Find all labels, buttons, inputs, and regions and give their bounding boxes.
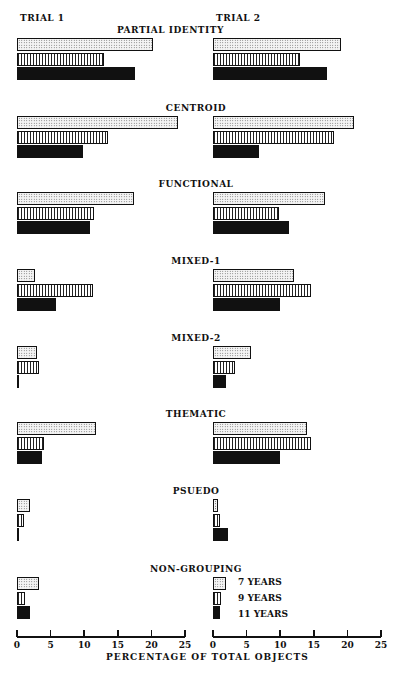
- bar-trial2-9-years: [213, 131, 334, 144]
- bar-trial1-9-years: [17, 514, 24, 527]
- x-tick-label: 20: [341, 640, 354, 650]
- bar-trial1-11-years: [17, 67, 135, 80]
- x-tick-label: 0: [14, 640, 20, 650]
- x-axis-tick: [50, 630, 52, 637]
- bar-trial2-7-years: [213, 346, 251, 359]
- bar-trial2-11-years: [213, 606, 220, 619]
- bar-trial2-9-years: [213, 53, 300, 66]
- bar-trial1-7-years: [17, 116, 178, 129]
- bar-trial1-7-years: [17, 577, 39, 590]
- bar-trial1-11-years: [17, 145, 83, 158]
- bar-trial2-7-years: [213, 422, 307, 435]
- x-tick-label: 5: [47, 640, 53, 650]
- trial-1-title: TRIAL 1: [20, 13, 65, 23]
- bar-trial1-11-years: [17, 298, 56, 311]
- bar-trial1-9-years: [17, 53, 104, 66]
- x-axis-line: [213, 636, 381, 638]
- bar-trial2-11-years: [213, 221, 289, 234]
- x-tick-label: 25: [179, 640, 192, 650]
- x-tick-label: 10: [78, 640, 91, 650]
- legend-11-years: 11 YEARS: [238, 609, 288, 619]
- bar-trial1-9-years: [17, 131, 108, 144]
- x-axis-tick: [246, 630, 248, 637]
- trial-2-title: TRIAL 2: [216, 13, 261, 23]
- bar-trial2-7-years: [213, 577, 226, 590]
- bar-trial1-11-years: [17, 606, 30, 619]
- bar-trial2-11-years: [213, 67, 327, 80]
- bar-trial2-7-years: [213, 192, 325, 205]
- x-tick-label: 10: [274, 640, 287, 650]
- bar-trial2-7-years: [213, 116, 354, 129]
- x-tick-label: 0: [210, 640, 216, 650]
- bar-trial2-11-years: [213, 528, 228, 541]
- x-axis-tick: [279, 630, 281, 637]
- category-label: NON-GROUPING: [150, 564, 242, 574]
- bar-trial1-11-years: [17, 528, 19, 541]
- bar-trial1-9-years: [17, 592, 25, 605]
- bar-trial2-7-years: [213, 38, 341, 51]
- bar-trial1-9-years: [17, 361, 39, 374]
- bar-trial2-11-years: [213, 298, 280, 311]
- bar-trial2-9-years: [213, 437, 311, 450]
- x-tick-label: 15: [112, 640, 125, 650]
- x-axis-title: PERCENTAGE OF TOTAL OBJECTS: [106, 652, 309, 662]
- bar-trial2-9-years: [213, 207, 279, 220]
- x-axis-tick: [380, 630, 382, 637]
- category-label: PSUEDO: [173, 486, 220, 496]
- bar-trial1-7-years: [17, 422, 96, 435]
- category-label: PARTIAL IDENTITY: [117, 25, 224, 35]
- bar-trial2-7-years: [213, 499, 218, 512]
- bar-trial2-9-years: [213, 592, 221, 605]
- bar-trial1-11-years: [17, 375, 19, 388]
- bar-trial2-9-years: [213, 284, 311, 297]
- category-label: MIXED-2: [171, 333, 220, 343]
- bar-trial2-7-years: [213, 269, 294, 282]
- x-tick-label: 25: [375, 640, 388, 650]
- x-axis-tick: [83, 630, 85, 637]
- x-axis-line: [17, 636, 185, 638]
- bar-trial1-9-years: [17, 207, 94, 220]
- bar-trial2-11-years: [213, 451, 280, 464]
- bar-trial2-9-years: [213, 514, 220, 527]
- bar-trial2-11-years: [213, 375, 226, 388]
- bar-trial1-7-years: [17, 499, 30, 512]
- x-axis-tick: [117, 630, 119, 637]
- bar-trial1-11-years: [17, 221, 90, 234]
- bar-trial1-7-years: [17, 346, 37, 359]
- x-axis-tick: [313, 630, 315, 637]
- x-tick-label: 15: [308, 640, 321, 650]
- category-label: MIXED-1: [171, 256, 220, 266]
- bar-trial2-9-years: [213, 361, 235, 374]
- x-axis-tick: [184, 630, 186, 637]
- category-label: FUNCTIONAL: [159, 179, 234, 189]
- bar-trial1-9-years: [17, 284, 93, 297]
- x-tick-label: 5: [243, 640, 249, 650]
- bar-trial1-7-years: [17, 38, 153, 51]
- bar-trial2-11-years: [213, 145, 259, 158]
- legend-9-years: 9 YEARS: [238, 593, 282, 603]
- legend-7-years: 7 YEARS: [238, 577, 282, 587]
- x-axis-tick: [212, 630, 214, 637]
- x-axis-tick: [16, 630, 18, 637]
- x-axis-tick: [151, 630, 153, 637]
- bar-trial1-11-years: [17, 451, 42, 464]
- bar-trial1-7-years: [17, 192, 134, 205]
- x-tick-label: 20: [145, 640, 158, 650]
- category-label: CENTROID: [166, 103, 226, 113]
- x-axis-tick: [347, 630, 349, 637]
- category-label: THEMATIC: [166, 409, 227, 419]
- bar-trial1-9-years: [17, 437, 44, 450]
- bar-trial1-7-years: [17, 269, 35, 282]
